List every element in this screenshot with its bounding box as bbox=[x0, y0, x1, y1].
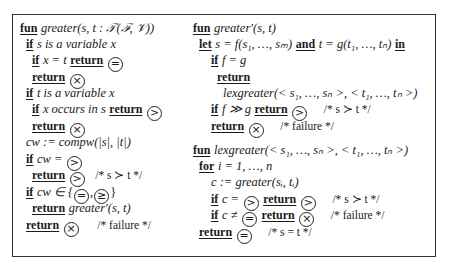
comment: /* s ≻ t */ bbox=[332, 193, 379, 205]
code-text: greater′(s, t) bbox=[214, 21, 276, 35]
comment: /* failure */ bbox=[331, 209, 385, 221]
keyword: fun bbox=[20, 21, 37, 35]
line-fun-lexgreater: fun lexgreater(< s₁, …, sₙ >, < t₁, …, t… bbox=[193, 142, 408, 158]
keyword: return bbox=[32, 70, 65, 84]
keyword: and bbox=[296, 37, 315, 51]
line-if-t-variable: if t is a variable x bbox=[26, 85, 115, 101]
keyword: return bbox=[263, 192, 296, 206]
line-let: let s = f(s₁, …, sₘ) and t = g(t₁, …, tₙ… bbox=[199, 36, 405, 52]
line-return-failure-r: return × /* failure */ bbox=[211, 118, 334, 134]
line-return-failure-final: return × /* failure */ bbox=[26, 217, 151, 233]
line-if-occurs: if x occurs in s return > bbox=[32, 101, 163, 117]
code-text: t is a variable x bbox=[37, 86, 115, 100]
code-text: t = g(t₁, …, tₙ) bbox=[319, 37, 392, 51]
comment: /* s ≻ t */ bbox=[324, 103, 371, 115]
keyword: return bbox=[199, 225, 232, 239]
line-if-c-not-equal: if c ≠ = return × /* failure */ bbox=[211, 207, 384, 223]
line-if-f-gg-g: if f ≫ g return > /* s ≻ t */ bbox=[211, 101, 371, 117]
times-circle-icon: × bbox=[64, 222, 79, 237]
code-text: } bbox=[110, 185, 116, 199]
keyword: if bbox=[32, 53, 39, 67]
comment: /* s ≻ t */ bbox=[95, 169, 142, 181]
line-fun-greater: fun greater(s, t : 𝒯(ℱ, 𝒱)) bbox=[20, 20, 154, 36]
equal-circle-icon: = bbox=[237, 229, 252, 244]
line-fun-greater-prime: fun greater′(s, t) bbox=[193, 20, 276, 36]
keyword: return bbox=[217, 70, 250, 84]
code-text: f ≫ g bbox=[222, 102, 251, 116]
code-text: cw := compw(|s|, |t|) bbox=[26, 135, 131, 149]
keyword: return bbox=[262, 208, 295, 222]
line-if-s-variable: if s is a variable x bbox=[26, 36, 116, 52]
code-text: c = bbox=[222, 192, 239, 206]
line-lexgreater-call: lexgreater(< s₁, …, sₙ >, < t₁, …, tₙ >) bbox=[223, 85, 417, 101]
line-if-cw-in-set: if cw ∈ {=,≥} bbox=[26, 184, 116, 200]
keyword: return bbox=[32, 119, 65, 133]
line-return-greater: return > /* s ≻ t */ bbox=[32, 167, 142, 183]
keyword: if bbox=[211, 102, 218, 116]
keyword: if bbox=[26, 152, 33, 166]
keyword: if bbox=[211, 208, 218, 222]
keyword: return bbox=[32, 168, 65, 182]
keyword: if bbox=[26, 37, 33, 51]
code-text: lexgreater(< s₁, …, sₙ >, < t₁, …, tₙ >) bbox=[214, 143, 408, 157]
line-if-x-eq-t: if x = t return = bbox=[32, 52, 124, 68]
code-text: greater′(s, t) bbox=[69, 201, 131, 215]
keyword: return bbox=[26, 218, 59, 232]
keyword: if bbox=[211, 53, 218, 67]
code-text: s is a variable x bbox=[37, 37, 116, 51]
keyword: return bbox=[32, 201, 65, 215]
line-return: return bbox=[217, 69, 250, 85]
code-text: i = 1, …, n bbox=[218, 159, 272, 173]
line-if-cw-greater: if cw = > bbox=[26, 151, 83, 167]
code-text: cw = bbox=[37, 152, 62, 166]
keyword: return bbox=[109, 102, 142, 116]
keyword: fun bbox=[193, 21, 210, 35]
line-return-greater-prime: return greater′(s, t) bbox=[32, 200, 131, 216]
comment: /* failure */ bbox=[97, 219, 151, 231]
keyword: if bbox=[211, 192, 218, 206]
comment: /* s = t */ bbox=[268, 226, 312, 238]
code-text: f = g bbox=[222, 53, 246, 67]
code-text: greater(s, t : 𝒯(ℱ, 𝒱)) bbox=[41, 21, 154, 35]
line-return-failure-2: return × bbox=[32, 118, 86, 134]
keyword: if bbox=[26, 86, 33, 100]
keyword: if bbox=[26, 185, 33, 199]
line-return-failure: return × bbox=[32, 69, 86, 85]
code-text: lexgreater(< s₁, …, sₙ >, < t₁, …, tₙ >) bbox=[223, 86, 417, 100]
keyword: return bbox=[254, 102, 287, 116]
code-text: c := greater(sᵢ, tᵢ) bbox=[211, 175, 299, 189]
line-return-equal: return = /* s = t */ bbox=[199, 224, 312, 240]
keyword: if bbox=[32, 102, 39, 116]
line-if-f-eq-g: if f = g bbox=[211, 52, 246, 68]
line-cw-assign: cw := compw(|s|, |t|) bbox=[26, 134, 131, 150]
keyword: for bbox=[199, 159, 214, 173]
equal-circle-icon: = bbox=[108, 57, 123, 72]
code-text: c ≠ bbox=[222, 208, 238, 222]
greater-circle-icon: > bbox=[147, 106, 162, 121]
keyword: let bbox=[199, 37, 212, 51]
keyword: return bbox=[70, 53, 103, 67]
comment: /* failure */ bbox=[280, 120, 334, 132]
line-c-assign: c := greater(sᵢ, tᵢ) bbox=[211, 174, 299, 190]
line-for: for i = 1, …, n bbox=[199, 158, 272, 174]
keyword: in bbox=[395, 37, 405, 51]
keyword: return bbox=[211, 119, 244, 133]
line-if-c-greater: if c = > return > /* s ≻ t */ bbox=[211, 191, 379, 207]
code-text: x = t bbox=[43, 53, 67, 67]
code-text: cw ∈ { bbox=[37, 185, 73, 199]
code-text: x occurs in s bbox=[43, 102, 106, 116]
times-circle-icon: × bbox=[249, 123, 264, 138]
keyword: fun bbox=[193, 143, 210, 157]
code-text: s = f(s₁, …, sₘ) bbox=[215, 37, 292, 51]
